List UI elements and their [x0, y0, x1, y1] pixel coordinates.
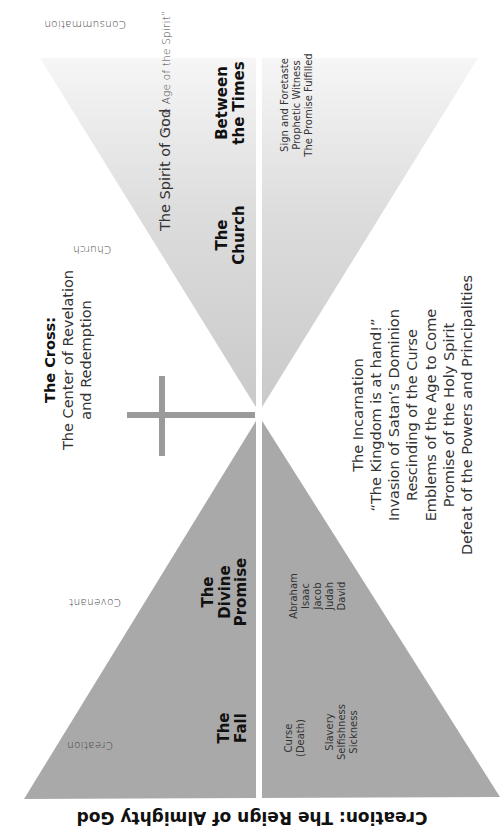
phase-between-the-times: Between the Times	[214, 61, 247, 144]
fall-curse: Curse (Death)	[283, 719, 307, 757]
age-of-spirit-label: “The Age of the Spirit”	[160, 10, 172, 133]
timeline-divider	[256, 50, 262, 810]
cross-horizontal-beam	[127, 412, 255, 418]
incarnation-list: The Incarnation “The Kingdom is at hand!…	[349, 275, 476, 555]
church-marks-list: Sign and Foretaste Prophetic Witness The…	[279, 53, 315, 156]
patriarchs-list: Abraham Isaac Jacob Judah David	[288, 573, 348, 619]
era-label-creation: Creation	[67, 740, 113, 752]
kingdom-timeline-diagram: Creation: The Reign of Almighty God Crea…	[0, 0, 502, 830]
cross-heading: The Cross:	[41, 270, 59, 450]
fall-consequences: Slavery Selfishness Sickness	[324, 704, 360, 760]
phase-the-fall: The Fall	[216, 712, 249, 743]
era-label-covenant: Covenant	[69, 597, 121, 609]
era-label-church: Church	[73, 244, 111, 256]
phase-the-church: The Church	[214, 205, 247, 264]
era-label-consummation: Consummation	[44, 19, 126, 31]
phase-divine-promise: The Divine Promise	[200, 558, 250, 627]
cross-caption: The Cross: The Center of Revelation and …	[41, 270, 95, 450]
diagram-title: Creation: The Reign of Almighty God	[77, 808, 428, 828]
